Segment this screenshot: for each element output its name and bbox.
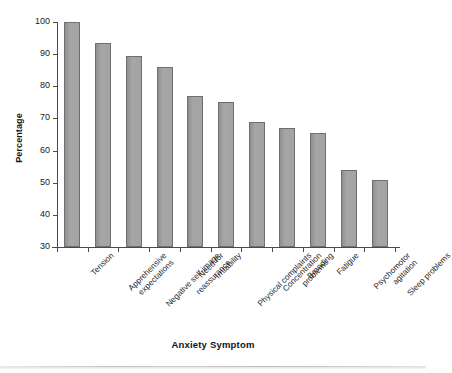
- y-axis-tick-mark: [53, 22, 57, 23]
- x-axis-title: Anxiety Symptom: [0, 339, 426, 350]
- x-axis-line: [52, 247, 400, 248]
- y-axis-tick-label: 30: [40, 241, 50, 251]
- bar: [126, 56, 142, 247]
- y-axis-line: [57, 22, 58, 248]
- plot-area: 30405060708090100: [57, 22, 395, 247]
- bar: [310, 133, 326, 247]
- bar: [64, 22, 80, 247]
- bar: [157, 67, 173, 247]
- y-axis-tick-mark: [53, 86, 57, 87]
- x-axis-category-label: Fatigue: [335, 251, 361, 277]
- y-axis-tick-label: 70: [40, 112, 50, 122]
- y-axis-tick-label: 40: [40, 209, 50, 219]
- y-axis-tick-mark: [53, 215, 57, 216]
- y-axis-tick-mark: [53, 118, 57, 119]
- y-axis-tick-mark: [53, 151, 57, 152]
- y-axis-tick-label: 80: [40, 80, 50, 90]
- scan-artifact-shadow: [0, 367, 426, 369]
- bar: [372, 180, 388, 248]
- x-axis-category-label: Apprehensiveexpectations: [127, 251, 176, 300]
- bar: [341, 170, 357, 247]
- y-axis-tick-mark: [53, 54, 57, 55]
- bar: [279, 128, 295, 247]
- y-axis-tick-label: 100: [35, 16, 50, 26]
- x-axis-category-labels: TensionApprehensiveexpectationsNegative …: [57, 249, 407, 339]
- bar: [249, 122, 265, 247]
- category-label-line: Fatigue: [335, 251, 361, 277]
- y-axis-tick-label: 60: [40, 145, 50, 155]
- x-axis-category-label: Tension: [90, 251, 117, 278]
- bar: [95, 43, 111, 247]
- y-axis-tick-label: 90: [40, 48, 50, 58]
- bar: [218, 102, 234, 247]
- bar: [187, 96, 203, 247]
- category-label-line: Tension: [90, 251, 117, 278]
- y-axis-title: Percentage: [14, 98, 24, 178]
- y-axis-tick-mark: [53, 183, 57, 184]
- y-axis-tick-label: 50: [40, 177, 50, 187]
